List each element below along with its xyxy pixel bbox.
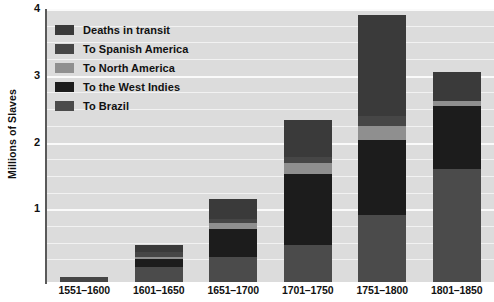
bar-segment	[209, 257, 257, 282]
y-tick-label: 1	[20, 202, 40, 214]
legend-swatch-icon	[55, 63, 74, 73]
x-tick-label: 1801–1850	[420, 284, 494, 296]
bar-2[interactable]	[135, 245, 183, 282]
bar-segment	[358, 116, 406, 126]
bar-5[interactable]	[358, 15, 406, 282]
y-axis-tick-labels: 1234	[12, 0, 40, 302]
legend-item-label: To Brazil	[83, 100, 129, 112]
y-tick-label: 3	[20, 69, 40, 81]
legend-item[interactable]: To Brazil	[55, 98, 188, 114]
legend-swatch-icon	[55, 82, 74, 92]
bar-segment	[284, 174, 332, 245]
legend-item-label: To the West Indies	[83, 81, 180, 93]
bar-3[interactable]	[209, 199, 257, 282]
y-tick-label: 2	[20, 136, 40, 148]
bar-4[interactable]	[284, 120, 332, 282]
bar-segment	[284, 163, 332, 174]
bar-segment	[358, 140, 406, 215]
bar-segment	[358, 215, 406, 282]
bar-segment	[433, 106, 481, 168]
legend-item[interactable]: Deaths in transit	[55, 22, 188, 38]
bar-segment	[135, 267, 183, 282]
stacked-bar-chart: Millions of Slaves 1234 1551–16001601–16…	[0, 0, 494, 302]
legend-item[interactable]: To the West Indies	[55, 79, 188, 95]
bar-segment	[284, 120, 332, 156]
x-tick-label: 1701–1750	[271, 284, 346, 296]
legend-swatch-icon	[55, 44, 74, 54]
x-tick-label: 1601–1650	[122, 284, 197, 296]
x-axis-tick-labels: 1551–16001601–16501651–17001701–17501751…	[47, 284, 494, 302]
legend-item[interactable]: To North America	[55, 60, 188, 76]
legend-item[interactable]: To Spanish America	[55, 41, 188, 57]
bar-segment	[60, 277, 108, 282]
bar-segment	[209, 199, 257, 218]
legend-swatch-icon	[55, 101, 74, 111]
bar-6[interactable]	[433, 72, 481, 282]
legend-item-label: To Spanish America	[83, 43, 188, 55]
bar-segment	[135, 245, 183, 252]
bar-segment	[284, 245, 332, 282]
legend-item-label: Deaths in transit	[83, 24, 170, 36]
bar-segment	[433, 169, 481, 282]
x-tick-label: 1751–1800	[345, 284, 420, 296]
bar-segment	[358, 15, 406, 116]
legend-swatch-icon	[55, 25, 74, 35]
chart-legend: Deaths in transitTo Spanish AmericaTo No…	[55, 22, 188, 117]
legend-item-label: To North America	[83, 62, 175, 74]
x-tick-label: 1551–1600	[47, 284, 122, 296]
x-tick-label: 1651–1700	[196, 284, 271, 296]
bar-segment	[433, 72, 481, 101]
bar-segment	[358, 126, 406, 140]
y-tick-label: 4	[20, 2, 40, 14]
bar-segment	[135, 259, 183, 267]
bar-1[interactable]	[60, 277, 108, 282]
bar-segment	[209, 229, 257, 257]
